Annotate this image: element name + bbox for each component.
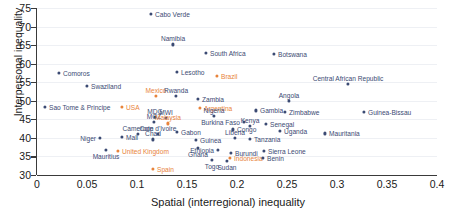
data-point[interactable] bbox=[194, 139, 197, 142]
data-point[interactable] bbox=[254, 109, 257, 112]
data-point-label: USA bbox=[126, 104, 140, 111]
data-point[interactable] bbox=[57, 72, 60, 75]
y-tick-mark bbox=[31, 138, 36, 139]
x-tick-label: 0.35 bbox=[377, 178, 397, 190]
data-point-label: Botswana bbox=[278, 51, 307, 58]
x-tick-label: 0 bbox=[34, 178, 40, 190]
x-tick-label: 0.25 bbox=[277, 178, 297, 190]
data-point[interactable] bbox=[264, 122, 267, 125]
data-point[interactable] bbox=[346, 82, 349, 85]
data-point-label: Central African Republic bbox=[313, 74, 384, 81]
y-tick-label: 40 bbox=[1, 133, 31, 143]
data-point-label: Liberia bbox=[225, 128, 245, 135]
data-point[interactable] bbox=[323, 132, 326, 135]
data-point[interactable] bbox=[175, 70, 178, 73]
data-point-label: Kenya bbox=[241, 117, 260, 124]
gridline bbox=[37, 45, 437, 46]
data-point[interactable] bbox=[248, 137, 251, 140]
data-point-label: Guinea bbox=[200, 137, 221, 144]
data-point[interactable] bbox=[43, 105, 46, 108]
data-point-label: Benin bbox=[267, 154, 284, 161]
data-point[interactable] bbox=[272, 52, 275, 55]
data-point[interactable] bbox=[215, 74, 218, 77]
data-point[interactable] bbox=[120, 106, 123, 109]
data-point[interactable] bbox=[154, 94, 157, 97]
gridline bbox=[37, 101, 437, 102]
data-point-label: Spain bbox=[157, 166, 174, 173]
data-point[interactable] bbox=[283, 110, 286, 113]
gridline bbox=[37, 27, 437, 28]
y-axis-title: Interpersonal inequality bbox=[12, 0, 24, 127]
data-point-label: Lesotho bbox=[181, 68, 204, 75]
x-tick-label: 0.2 bbox=[230, 178, 245, 190]
data-point[interactable] bbox=[196, 97, 199, 100]
data-point-label: Zimbabwe bbox=[289, 108, 319, 115]
x-tick-label: 0.05 bbox=[77, 178, 97, 190]
data-point[interactable] bbox=[233, 136, 236, 139]
x-tick-label: 0.15 bbox=[177, 178, 197, 190]
data-point-label: Guinea-Bissau bbox=[368, 109, 411, 116]
data-point[interactable] bbox=[198, 106, 201, 109]
data-point[interactable] bbox=[362, 111, 365, 114]
data-point[interactable] bbox=[287, 99, 290, 102]
data-point-label: Gambia bbox=[260, 107, 283, 114]
data-point[interactable] bbox=[152, 121, 155, 124]
data-point-label: Burkina Faso bbox=[201, 119, 240, 126]
data-point[interactable] bbox=[210, 159, 213, 162]
gridline bbox=[37, 8, 437, 9]
data-point-label: Sudan bbox=[217, 164, 236, 171]
data-point[interactable] bbox=[225, 160, 228, 163]
data-point[interactable] bbox=[151, 138, 154, 141]
data-point[interactable] bbox=[104, 149, 107, 152]
data-point[interactable] bbox=[204, 52, 207, 55]
data-point[interactable] bbox=[85, 84, 88, 87]
plot-area: Cabo VerdeNamibiaSouth AfricaBotswanaLes… bbox=[37, 8, 437, 175]
data-point-label: Brazil bbox=[221, 72, 238, 79]
y-tick-mark bbox=[31, 27, 36, 28]
scatter-chart: Cabo VerdeNamibiaSouth AfricaBotswanaLes… bbox=[0, 0, 456, 220]
y-axis-line bbox=[36, 8, 37, 175]
data-point[interactable] bbox=[151, 168, 154, 171]
y-tick-mark bbox=[31, 8, 36, 9]
data-point-label: South Africa bbox=[210, 50, 246, 57]
data-point-label: Namibia bbox=[161, 35, 185, 42]
y-tick-label: 30 bbox=[1, 170, 31, 180]
data-point-label: Uganda bbox=[284, 127, 307, 134]
data-point[interactable] bbox=[212, 114, 215, 117]
data-point[interactable] bbox=[278, 129, 281, 132]
y-tick-mark bbox=[31, 82, 36, 83]
data-point-label: Comoros bbox=[63, 70, 90, 77]
data-point[interactable] bbox=[262, 149, 265, 152]
data-point[interactable] bbox=[174, 94, 177, 97]
data-point-label: Gabon bbox=[181, 129, 201, 136]
data-point-label: Ethiopia bbox=[190, 146, 214, 153]
data-point[interactable] bbox=[228, 156, 231, 159]
y-tick-mark bbox=[31, 119, 36, 120]
data-point-label: Niger bbox=[80, 135, 96, 142]
data-point-label: Mauritania bbox=[329, 130, 360, 137]
data-point[interactable] bbox=[229, 151, 232, 154]
data-point-label: Zambia bbox=[202, 95, 224, 102]
data-point-label: Chad bbox=[145, 130, 161, 137]
x-axis-title: Spatial (interregional) inequality bbox=[0, 196, 456, 208]
data-point-label: Nigeria bbox=[204, 106, 225, 113]
data-point[interactable] bbox=[261, 156, 264, 159]
data-point[interactable] bbox=[98, 137, 101, 140]
y-tick-mark bbox=[31, 64, 36, 65]
data-point-label: Swaziland bbox=[91, 82, 121, 89]
data-point[interactable] bbox=[149, 13, 152, 16]
x-tick-label: 0.1 bbox=[130, 178, 145, 190]
data-point-label: Tanzania bbox=[254, 135, 280, 142]
gridline bbox=[37, 64, 437, 65]
x-tick-label: 0.4 bbox=[430, 178, 445, 190]
data-point-label: Rwanda bbox=[164, 87, 188, 94]
y-tick-mark bbox=[31, 156, 36, 157]
y-tick-mark bbox=[31, 45, 36, 46]
data-point-label: Mali bbox=[126, 134, 138, 141]
y-tick-mark bbox=[31, 101, 36, 102]
data-point-label: Sao Tome & Principe bbox=[49, 103, 110, 110]
gridline bbox=[37, 138, 437, 139]
data-point-label: Indonesia bbox=[234, 154, 263, 161]
data-point-label: United Kingdom bbox=[122, 147, 169, 154]
data-point[interactable] bbox=[216, 148, 219, 151]
